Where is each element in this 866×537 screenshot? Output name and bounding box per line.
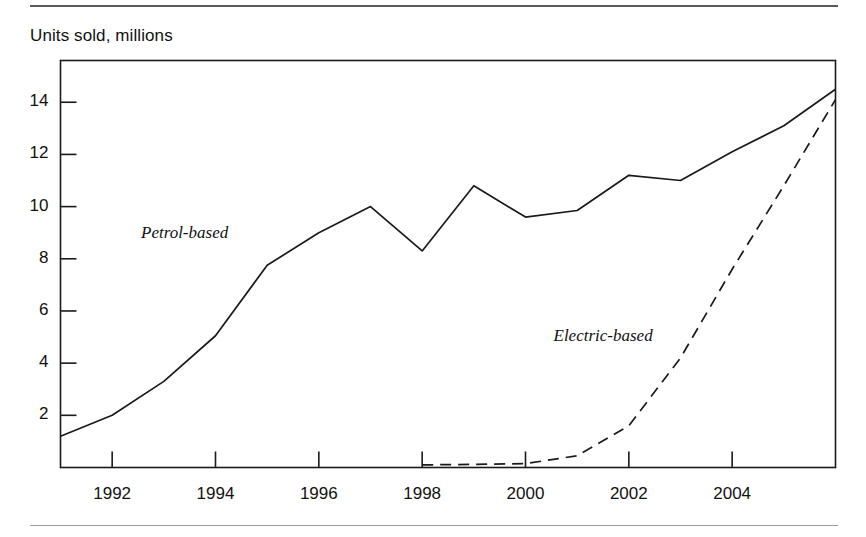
- figure-container: Units sold, millions 2468101214 19921994…: [0, 0, 866, 537]
- x-axis-tick-label: 2002: [594, 484, 664, 504]
- bottom-divider-rule: [30, 525, 838, 526]
- y-axis-tick-label: 2: [9, 404, 49, 424]
- x-axis-tick-label: 2000: [491, 484, 561, 504]
- series-label-electric-based: Electric-based: [554, 326, 653, 346]
- y-axis-tick-label: 8: [9, 248, 49, 268]
- x-axis-tick-label: 1994: [181, 484, 251, 504]
- x-axis-tick-label: 1992: [77, 484, 147, 504]
- y-axis-tick-label: 12: [9, 143, 49, 163]
- y-axis-tick-label: 14: [9, 91, 49, 111]
- x-axis-tick-label: 1998: [387, 484, 457, 504]
- series-label-petrol-based: Petrol-based: [141, 223, 228, 243]
- y-axis-tick-label: 10: [9, 196, 49, 216]
- y-axis-tick-label: 6: [9, 300, 49, 320]
- line-chart-plot: [0, 0, 866, 537]
- x-axis-tick-label: 2004: [697, 484, 767, 504]
- x-axis-tick-label: 1996: [284, 484, 354, 504]
- axis-ticks: [61, 102, 733, 467]
- y-axis-tick-label: 4: [9, 352, 49, 372]
- data-series-lines: [61, 89, 836, 465]
- plot-frame: [61, 61, 836, 468]
